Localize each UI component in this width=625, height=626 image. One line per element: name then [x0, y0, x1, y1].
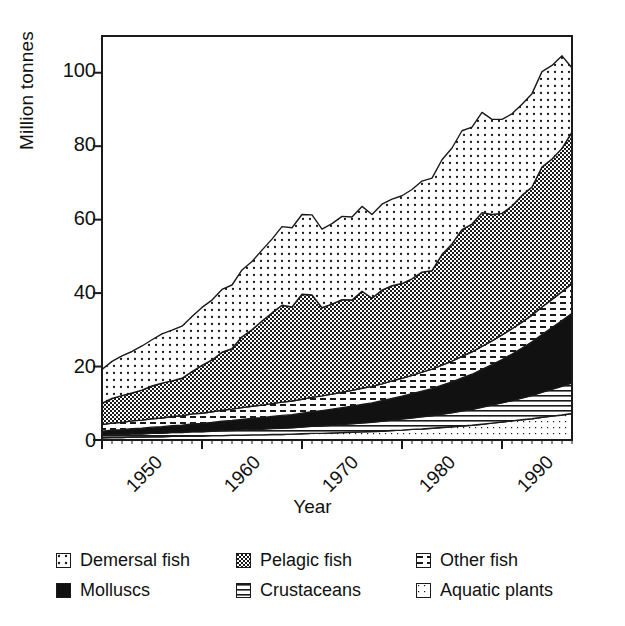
y-axis-tick-labels: 100 80 60 40 20 0 [20, 0, 96, 470]
area-crustaceans [102, 383, 572, 438]
x-tick-1950: 1950 [122, 452, 165, 495]
legend-label-crustaceans: Crustaceans [260, 581, 361, 599]
x-tick-1960: 1960 [220, 452, 263, 495]
area-pelagic-fish [102, 132, 572, 424]
legend-item-other-fish[interactable]: Other fish [416, 551, 601, 569]
x-tick-1990: 1990 [513, 452, 556, 495]
legend-label-pelagic-fish: Pelagic fish [260, 551, 352, 569]
y-tick-20: 20 [36, 356, 96, 376]
legend-item-molluscs[interactable]: Molluscs [56, 581, 236, 599]
legend-label-demersal-fish: Demersal fish [80, 551, 190, 569]
legend-item-aquatic-plants[interactable]: Aquatic plants [416, 581, 601, 599]
legend-swatch-aquatic-plants [416, 583, 431, 598]
legend-swatch-molluscs [56, 583, 71, 598]
legend-item-pelagic-fish[interactable]: Pelagic fish [236, 551, 416, 569]
legend: Demersal fish Pelagic fish Other fish Mo… [56, 545, 601, 605]
legend-label-molluscs: Molluscs [80, 581, 150, 599]
y-tick-80: 80 [36, 134, 96, 154]
legend-label-aquatic-plants: Aquatic plants [440, 581, 553, 599]
legend-item-crustaceans[interactable]: Crustaceans [236, 581, 416, 599]
y-tick-0: 0 [36, 430, 96, 450]
legend-row-2: Molluscs Crustaceans Aquatic plants [56, 575, 601, 605]
x-tick-1970: 1970 [318, 452, 361, 495]
figure: Million tonnes 100 80 60 40 20 0 1950 19… [0, 0, 625, 626]
legend-item-demersal-fish[interactable]: Demersal fish [56, 551, 236, 569]
x-tick-1980: 1980 [415, 452, 458, 495]
area-molluscs [102, 313, 572, 435]
y-tick-60: 60 [36, 208, 96, 228]
legend-swatch-pelagic-fish [236, 553, 251, 568]
area-aquatic-plants [102, 414, 572, 440]
legend-swatch-other-fish [416, 553, 431, 568]
area-other-fish [102, 284, 572, 432]
y-tick-40: 40 [36, 282, 96, 302]
area-demersal-fish [102, 56, 572, 403]
x-axis-title: Year [0, 496, 625, 518]
legend-swatch-crustaceans [236, 583, 251, 598]
legend-swatch-demersal-fish [56, 553, 71, 568]
y-tick-100: 100 [36, 60, 96, 80]
legend-row-1: Demersal fish Pelagic fish Other fish [56, 545, 601, 575]
legend-label-other-fish: Other fish [440, 551, 518, 569]
